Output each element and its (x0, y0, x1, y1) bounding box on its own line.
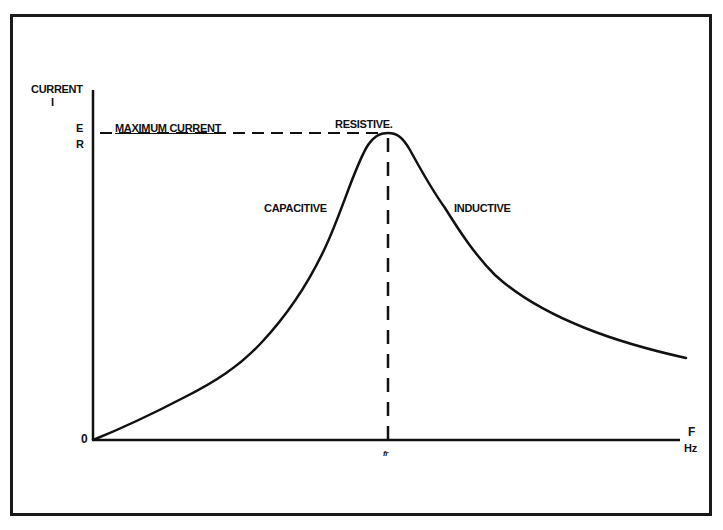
capacitive-label: CAPACITIVE (264, 202, 327, 214)
resonant-frequency-tick-label: fr (383, 449, 388, 458)
x-axis-title: F (688, 425, 695, 439)
y-axis-title: CURRENT (31, 83, 83, 95)
inductive-label: INDUCTIVE (454, 202, 511, 214)
resistive-label: RESISTIVE. (335, 118, 393, 130)
x-axis-units: Hz (684, 442, 697, 454)
y-max-denominator: R (76, 138, 84, 150)
y-axis-symbol: I (51, 96, 54, 108)
resonance-curve (93, 133, 686, 440)
y-max-numerator: E (76, 122, 83, 134)
max-current-label: MAXIMUM CURRENT (115, 122, 221, 134)
origin-label: 0 (81, 432, 87, 446)
resonance-chart (0, 0, 723, 530)
